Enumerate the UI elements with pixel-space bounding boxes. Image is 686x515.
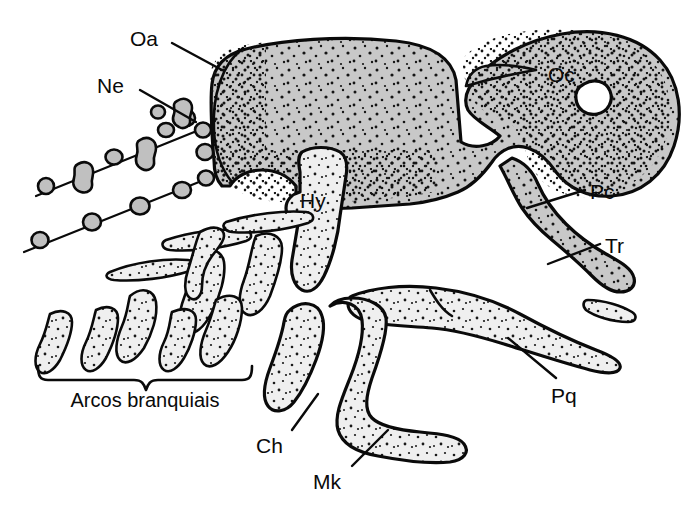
label-arcos-branquiais: Arcos branquiais (71, 389, 220, 411)
label-oa: Oa (130, 27, 158, 50)
label-tr: Tr (605, 234, 624, 257)
label-oc: Oc (548, 63, 575, 86)
label-hy: Hy (300, 189, 326, 212)
label-pc: Pc (590, 180, 615, 203)
foramen-magnum (576, 81, 611, 114)
label-ch: Ch (256, 434, 283, 457)
label-mk: Mk (313, 470, 341, 493)
chondrocranium-diagram: Oa Ne Oc Pc Tr Pq Hy Ch Mk Arcos branqui… (0, 0, 686, 515)
label-ne: Ne (97, 74, 124, 97)
label-pq: Pq (551, 384, 577, 407)
